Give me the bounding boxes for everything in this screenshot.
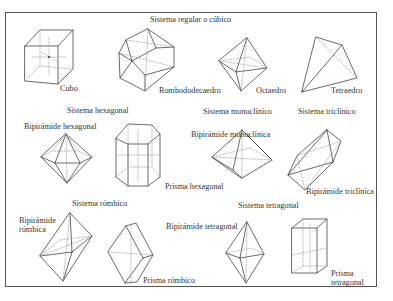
label-bipiramide-rombica-line1: Bipirámide [19, 216, 56, 225]
hexagonal-system-title: Sistema hexagonal [67, 106, 129, 115]
monoclinic-system-title: Sistema monoclínico [203, 107, 272, 116]
label-prisma-rombico: Prisma rómbico [143, 276, 195, 285]
triclinic-system-title: Sistema triclínico [298, 107, 356, 116]
label-rombododecaedro: Rombododecaedro [159, 86, 221, 95]
hexagonal-bipyramid-shape [41, 134, 92, 183]
cube-shape [25, 30, 73, 84]
tetrahedron-shape [302, 37, 357, 92]
label-bipiramide-tetragonal: Bipirámide tetragonal [166, 222, 238, 231]
crystal-shapes [0, 0, 393, 301]
label-tetraedro: Tetraedro [331, 86, 362, 95]
tetragonal-system-title: Sistema tetragonal [238, 201, 299, 210]
label-bipiramide-monoclinica: Bipirámide monoclínica [191, 130, 270, 139]
label-bipiramide-triclinica: Bipirámide triclínica [306, 187, 374, 196]
rhombic-prism-shape [108, 223, 153, 283]
rhombic-dodecahedron-shape [119, 29, 174, 91]
octahedron-shape [219, 38, 267, 91]
hexagonal-prism-shape [116, 124, 160, 186]
label-bipiramide-hexagonal: Bipirámide hexagonal [24, 122, 97, 131]
triclinic-bipyramid-shape [288, 130, 341, 190]
label-cubo: Cubo [60, 84, 78, 93]
tetragonal-bipyramid-shape [226, 222, 264, 283]
label-prisma-tetragonal-line1: Prisma [331, 269, 354, 278]
label-bipiramide-rombica-line2: rómbica [19, 225, 46, 234]
label-prisma-tetragonal-line2: tetragonal [331, 278, 364, 287]
tetragonal-prism-shape [292, 219, 327, 273]
rhombic-system-title: Sistema rómbico [72, 199, 127, 208]
crystal-systems-diagram: Sistema regular o cúbico Cubo Rombododec… [0, 0, 393, 301]
cubic-system-title: Sistema regular o cúbico [150, 15, 231, 24]
label-prisma-hexagonal: Prisma hexagonal [165, 182, 223, 191]
label-octaedro: Octaedro [256, 86, 286, 95]
